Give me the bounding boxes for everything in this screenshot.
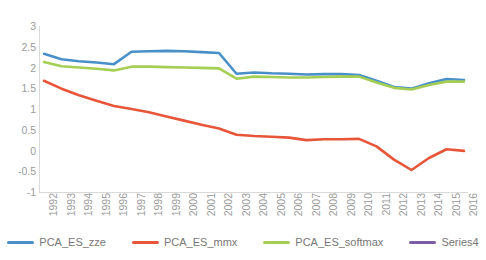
- x-axis-tick-text: 1992: [48, 193, 59, 216]
- series-line-PCA_ES_mmx: [44, 81, 464, 170]
- x-axis-tick-labels: 1992199319941995199619971998199920002001…: [40, 193, 468, 235]
- chart-legend: PCA_ES_zzePCA_ES_mmxPCA_ES_softmaxSeries…: [0, 230, 486, 254]
- x-axis-tick-text: 2015: [451, 193, 462, 216]
- x-axis-tick-text: 1993: [66, 193, 77, 216]
- x-axis-tick-text: 2002: [223, 193, 234, 216]
- x-axis-tick-text: 1996: [118, 193, 129, 216]
- x-axis-tick: 2016: [468, 193, 479, 216]
- y-axis-tick: 3: [2, 21, 36, 32]
- x-axis-tick-text: 2008: [328, 193, 339, 216]
- x-axis-tick-text: 2014: [433, 193, 444, 216]
- x-axis-tick: 2005: [276, 193, 287, 216]
- x-axis-tick-text: 2012: [398, 193, 409, 216]
- x-axis-tick: 2010: [363, 193, 374, 216]
- legend-item-label: PCA_ES_softmax: [295, 237, 383, 248]
- x-axis-tick: 1993: [66, 193, 77, 216]
- x-axis-tick-text: 2007: [311, 193, 322, 216]
- y-axis-tick: 1.5: [2, 83, 36, 94]
- y-axis-tick: 0: [2, 145, 36, 156]
- x-axis-tick: 2008: [328, 193, 339, 216]
- x-axis-tick-text: 2010: [363, 193, 374, 216]
- y-axis-tick: 2.5: [2, 42, 36, 53]
- x-axis-tick-text: 1997: [136, 193, 147, 216]
- x-axis-tick: 2009: [346, 193, 357, 216]
- x-axis-tick: 2006: [293, 193, 304, 216]
- x-axis-tick: 1992: [48, 193, 59, 216]
- x-axis-tick: 2014: [433, 193, 444, 216]
- legend-item-label: Series4: [441, 237, 478, 248]
- x-axis-tick-text: 2006: [293, 193, 304, 216]
- legend-swatch-icon: [132, 241, 159, 244]
- x-axis-tick: 2002: [223, 193, 234, 216]
- x-axis-tick: 1994: [83, 193, 94, 216]
- legend-swatch-icon: [409, 241, 436, 244]
- y-axis-tick: 0.5: [2, 125, 36, 136]
- x-axis-tick: 2004: [258, 193, 269, 216]
- x-axis-tick-text: 2000: [188, 193, 199, 216]
- legend-item-label: PCA_ES_mmx: [164, 237, 237, 248]
- legend-item-Series4[interactable]: Series4: [409, 237, 478, 248]
- x-axis-tick-text: 1995: [101, 193, 112, 216]
- legend-item-PCA_ES_softmax[interactable]: PCA_ES_softmax: [263, 237, 383, 248]
- y-axis-tick: -1: [2, 187, 36, 198]
- x-axis-tick-text: 2004: [258, 193, 269, 216]
- x-axis-tick: 2011: [381, 193, 392, 216]
- x-axis-tick-text: 2003: [241, 193, 252, 216]
- x-axis-tick-text: 2013: [416, 193, 427, 216]
- x-axis-tick: 1998: [153, 193, 164, 216]
- y-axis-tick: 1: [2, 104, 36, 115]
- x-axis-tick-text: 2001: [206, 193, 217, 216]
- x-axis-tick-text: 2016: [468, 193, 479, 216]
- line-chart: 32.521.510.50-0.5-1 19921993199419951996…: [0, 0, 486, 260]
- x-axis-tick: 1999: [171, 193, 182, 216]
- x-axis-tick-text: 2011: [381, 193, 392, 216]
- y-axis-tick-labels: 32.521.510.50-0.5-1: [0, 0, 36, 260]
- x-axis-tick-text: 1998: [153, 193, 164, 216]
- x-axis-tick: 2007: [311, 193, 322, 216]
- legend-item-label: PCA_ES_zze: [39, 237, 106, 248]
- legend-swatch-icon: [263, 241, 290, 244]
- plot-area: [40, 26, 468, 192]
- x-axis-tick: 2013: [416, 193, 427, 216]
- y-axis-tick: -0.5: [2, 166, 36, 177]
- legend-item-PCA_ES_mmx[interactable]: PCA_ES_mmx: [132, 237, 237, 248]
- x-axis-tick-text: 1999: [171, 193, 182, 216]
- x-axis-tick: 1997: [136, 193, 147, 216]
- x-axis-tick-text: 2005: [276, 193, 287, 216]
- x-axis-tick: 1995: [101, 193, 112, 216]
- x-axis-tick-text: 2009: [346, 193, 357, 216]
- x-axis-tick: 2012: [398, 193, 409, 216]
- series-lines: [40, 26, 468, 192]
- x-axis-tick: 1996: [118, 193, 129, 216]
- y-axis-tick: 2: [2, 62, 36, 73]
- legend-item-PCA_ES_zze[interactable]: PCA_ES_zze: [7, 237, 106, 248]
- series-line-PCA_ES_softmax: [44, 62, 464, 89]
- x-axis-tick: 2001: [206, 193, 217, 216]
- x-axis-tick: 2000: [188, 193, 199, 216]
- legend-swatch-icon: [7, 241, 34, 244]
- x-axis-tick: 2015: [451, 193, 462, 216]
- x-axis-tick-text: 1994: [83, 193, 94, 216]
- x-axis-tick: 2003: [241, 193, 252, 216]
